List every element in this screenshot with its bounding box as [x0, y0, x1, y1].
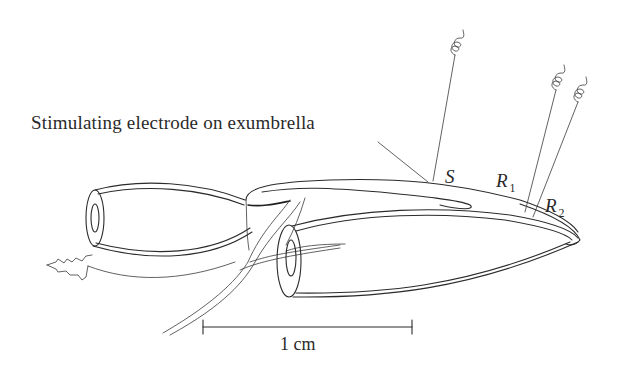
left-bell-lower-sheet [88, 262, 235, 278]
left-bell-top-inner [98, 189, 244, 205]
right-bell-top-outer [292, 210, 578, 238]
stem-strand-4 [240, 248, 340, 270]
caption-leader-line [378, 142, 428, 182]
label-electrode-R1: R1 [496, 170, 516, 196]
specimen-drawing [0, 0, 631, 387]
electrode-S-wire [433, 55, 455, 181]
left-bell-bottom-outer [93, 232, 252, 256]
scale-bar-label: 1 cm [280, 334, 316, 355]
torn-edge-upper [47, 255, 92, 265]
label-electrode-S: S [445, 166, 455, 188]
stem-strands [163, 198, 345, 335]
left-bell-lumen [91, 204, 99, 232]
stem-junction-dark [248, 201, 290, 206]
electrode-R2-coil [574, 77, 587, 102]
left-bell-rim [86, 190, 104, 246]
electrode-S-letter: S [445, 166, 455, 187]
electrode-R2-subscript: 2 [559, 206, 565, 220]
left-bell-bottom-inner [96, 228, 250, 252]
label-electrode-R2: R2 [545, 195, 565, 221]
torn-edge-lower [47, 265, 88, 280]
stem-strand-6 [286, 198, 305, 245]
stem-strand-2 [170, 202, 300, 335]
left-bell [47, 183, 252, 280]
diagram-figure: Stimulating electrode on exumbrella S R1… [0, 0, 631, 387]
exumbrella-flap [246, 180, 578, 250]
inner-fold [262, 188, 471, 209]
right-bell-bottom-outer [293, 242, 578, 297]
stem-strand-1 [163, 200, 290, 333]
right-bell-rim [277, 225, 301, 297]
electrode-S-coil [451, 30, 464, 55]
electrode-R1 [525, 65, 565, 212]
right-bell-lumen [286, 240, 296, 276]
scale-bar [203, 320, 412, 334]
right-bell-bottom-inner [296, 242, 570, 293]
caption-stimulating-electrode: Stimulating electrode on exumbrella [31, 112, 315, 134]
electrode-S [433, 30, 464, 181]
electrode-R1-coil [552, 65, 565, 90]
electrode-R1-wire [525, 90, 556, 212]
electrode-R1-letter: R [496, 170, 508, 191]
electrode-R2-letter: R [545, 195, 557, 216]
flap-edge [246, 200, 249, 250]
electrode-R1-subscript: 1 [510, 181, 516, 195]
